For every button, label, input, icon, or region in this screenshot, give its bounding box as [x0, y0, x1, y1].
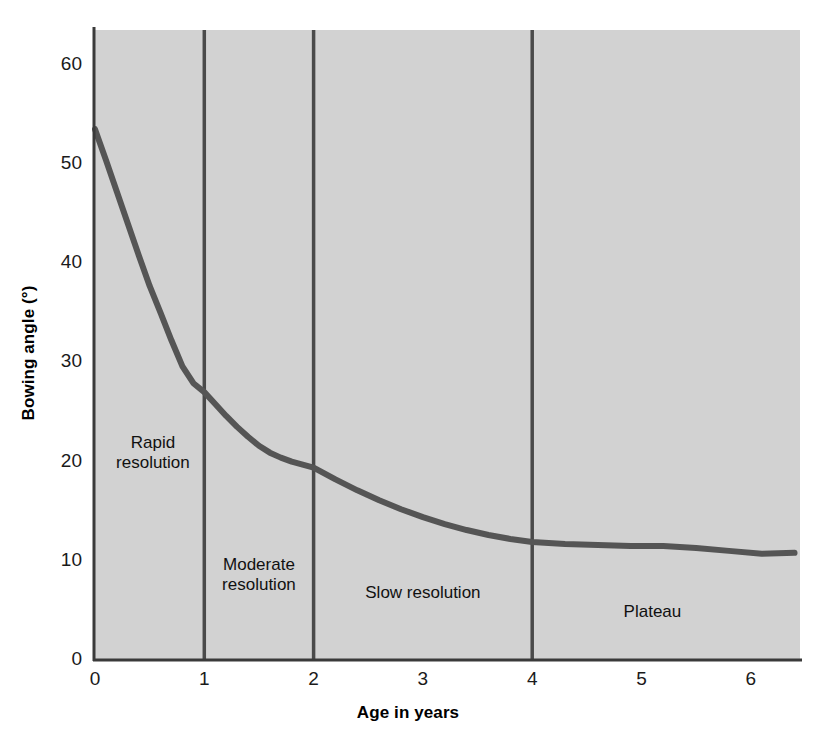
- y-tick-label: 10: [30, 549, 82, 571]
- y-tick-label: 0: [30, 648, 82, 670]
- plateau-label: Plateau: [562, 602, 742, 623]
- x-tick-label: 0: [70, 668, 120, 690]
- x-tick-label: 5: [617, 668, 667, 690]
- x-tick-label: 6: [726, 668, 776, 690]
- plot-canvas: [0, 0, 816, 751]
- x-axis-title: Age in years: [0, 703, 816, 723]
- y-tick-label: 60: [30, 53, 82, 75]
- slow-resolution-label: Slow resolution: [333, 583, 513, 604]
- x-tick-label: 4: [507, 668, 557, 690]
- y-tick-label: 30: [30, 350, 82, 372]
- y-tick-label: 40: [30, 251, 82, 273]
- chart-figure: Bowing angle (°) Age in years 0102030405…: [0, 0, 816, 751]
- x-tick-label: 3: [398, 668, 448, 690]
- moderate-resolution-label: Moderate resolution: [169, 555, 349, 596]
- x-tick-label: 1: [179, 668, 229, 690]
- y-tick-label: 50: [30, 152, 82, 174]
- rapid-resolution-label: Rapid resolution: [63, 433, 243, 474]
- x-tick-label: 2: [289, 668, 339, 690]
